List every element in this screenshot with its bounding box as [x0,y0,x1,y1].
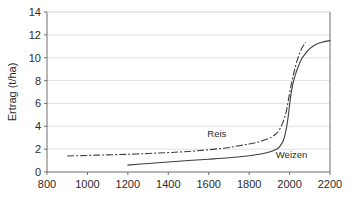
yield-line-chart: 02468101214 8001000120014001600180020002… [0,0,350,201]
x-tick-label-800: 800 [38,178,56,190]
y-tick-label-10: 10 [29,52,41,64]
y-tick-label-4: 4 [35,120,41,132]
x-tick-label-1600: 1600 [196,178,220,190]
x-tick-label-2000: 2000 [277,178,301,190]
x-tick-label-1800: 1800 [237,178,261,190]
chart-background [0,0,350,201]
y-tick-label-2: 2 [35,143,41,155]
x-tick-label-1400: 1400 [156,178,180,190]
chart-container: 02468101214 8001000120014001600180020002… [0,0,350,201]
x-tick-label-1000: 1000 [75,178,99,190]
x-tick-label-1200: 1200 [116,178,140,190]
y-tick-label-0: 0 [35,166,41,178]
y-tick-label-12: 12 [29,29,41,41]
y-tick-label-6: 6 [35,97,41,109]
y-tick-label-8: 8 [35,75,41,87]
x-tick-label-2200: 2200 [318,178,342,190]
y-axis-title: Ertrag (t/ha) [6,63,18,122]
series-label-weizen: Weizen [276,149,308,160]
series-label-reis: Reis [207,128,226,139]
y-tick-label-14: 14 [29,6,41,18]
